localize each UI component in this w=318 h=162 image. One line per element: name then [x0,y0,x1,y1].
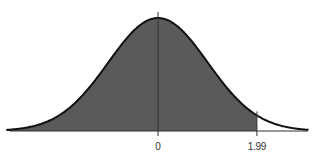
tick-label-z: 1.99 [248,141,266,152]
tick-label-mean: 0 [155,141,160,152]
shaded-area [6,18,256,131]
normal-curve-chart [0,0,318,162]
